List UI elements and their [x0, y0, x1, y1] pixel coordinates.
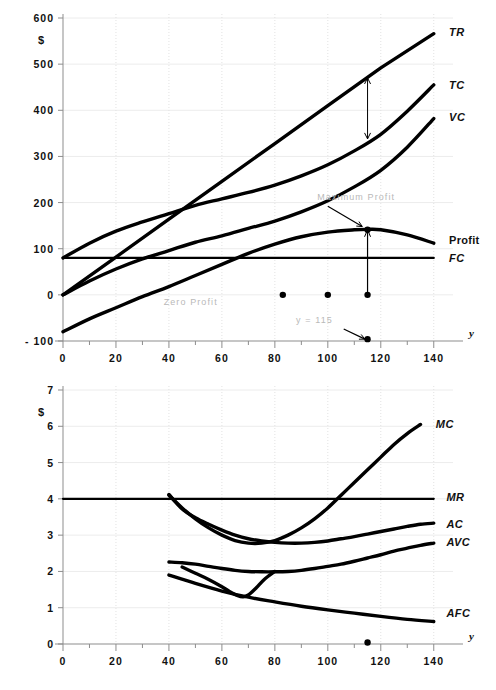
- y-tick-label: 5: [47, 457, 54, 469]
- figure-container: - 10001002003004005006000204060801001201…: [0, 0, 496, 690]
- average-marginal-curves-panel: 01234567020406080100120140y$MCMRACAVCAFC: [0, 372, 496, 690]
- y-tick-label: 400: [33, 104, 54, 116]
- maximum-profit-label: Maximum Profit: [317, 192, 395, 202]
- axis-115-marker-lower: [364, 639, 370, 645]
- x-tick-label: 100: [318, 655, 339, 667]
- x-tick-label: 140: [423, 655, 444, 667]
- curve-tr: [63, 34, 434, 295]
- y-tick-label: 500: [33, 58, 54, 70]
- y-tick-label: 200: [33, 197, 54, 209]
- x-axis-label: y: [467, 630, 474, 642]
- curve-label-profit: Profit: [449, 234, 480, 246]
- x-tick-label: 120: [371, 352, 392, 364]
- x-tick-label: 0: [60, 352, 67, 364]
- y-tick-label: 600: [33, 12, 54, 24]
- y-tick-label: 100: [33, 243, 54, 255]
- y-tick-label: 6: [47, 420, 54, 432]
- zero-profit-label: Zero Profit: [164, 297, 218, 307]
- curve-label-vc: VC: [449, 111, 466, 123]
- curve-label-tr: TR: [449, 26, 465, 38]
- mid-marker: [325, 292, 331, 298]
- y-tick-label: 0: [47, 289, 54, 301]
- curve-profit: [63, 229, 434, 332]
- y-tick-label: 3: [47, 529, 54, 541]
- x-tick-label: 20: [109, 352, 123, 364]
- x-axis-label: y: [467, 327, 474, 339]
- curve-label-avc: AVC: [445, 536, 470, 548]
- max-profit-marker: [364, 292, 370, 298]
- axis-115-marker: [364, 336, 370, 342]
- y-tick-label: 300: [33, 150, 54, 162]
- x-tick-label: 40: [162, 352, 176, 364]
- curve-label-afc: AFC: [445, 607, 471, 619]
- zero-profit-marker: [280, 292, 286, 298]
- curve-label-mr: MR: [446, 491, 464, 503]
- curve-label-fc: FC: [449, 252, 465, 264]
- curve-afc: [169, 575, 434, 621]
- x-tick-label: 20: [109, 655, 123, 667]
- curve-ac: [169, 495, 434, 544]
- curve-avc: [169, 543, 434, 572]
- max-profit-peak-marker: [364, 227, 370, 233]
- curve-vc: [63, 119, 434, 295]
- x-tick-label: 100: [318, 352, 339, 364]
- y-axis-label: $: [38, 34, 44, 46]
- y-tick-label: 4: [47, 493, 54, 505]
- max-profit-pointer: [328, 206, 362, 226]
- y-115-pointer: [344, 329, 365, 339]
- x-tick-label: 60: [215, 352, 229, 364]
- y-equals-115-label: y = 115: [296, 315, 333, 325]
- curve-label-ac: AC: [445, 518, 463, 530]
- y-tick-label: - 100: [25, 335, 54, 347]
- x-tick-label: 140: [423, 352, 444, 364]
- x-tick-label: 80: [268, 655, 282, 667]
- y-tick-label: 2: [47, 565, 54, 577]
- y-tick-label: 7: [47, 384, 54, 396]
- y-tick-label: 0: [47, 638, 54, 650]
- curve-label-tc: TC: [449, 79, 465, 91]
- y-axis-label: $: [38, 406, 44, 418]
- x-tick-label: 0: [60, 655, 67, 667]
- curve-label-mc: MC: [436, 418, 455, 430]
- x-tick-label: 60: [215, 655, 229, 667]
- curve-mc: [169, 424, 421, 543]
- total-curves-panel: - 10001002003004005006000204060801001201…: [0, 0, 496, 368]
- x-tick-label: 40: [162, 655, 176, 667]
- y-tick-label: 1: [47, 602, 54, 614]
- x-tick-label: 120: [371, 655, 392, 667]
- x-tick-label: 80: [268, 352, 282, 364]
